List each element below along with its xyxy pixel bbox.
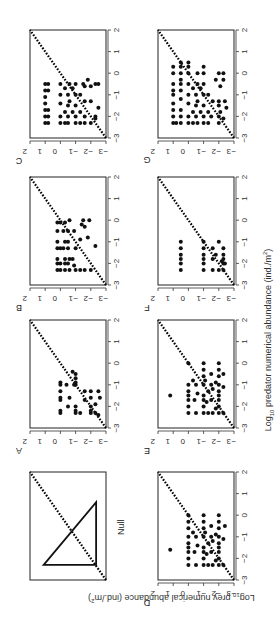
data-point bbox=[202, 65, 206, 69]
data-point bbox=[221, 257, 225, 261]
y-tick-label: 1 bbox=[38, 147, 52, 156]
y-tick-label: 1 bbox=[38, 437, 52, 446]
data-point bbox=[217, 550, 221, 554]
data-point bbox=[194, 104, 198, 108]
data-point bbox=[46, 89, 50, 93]
data-point bbox=[83, 389, 87, 393]
data-point bbox=[206, 93, 210, 97]
data-point bbox=[217, 526, 221, 530]
data-point bbox=[211, 257, 215, 261]
null-label: Null bbox=[116, 519, 126, 535]
data-point bbox=[83, 398, 87, 402]
data-point bbox=[74, 409, 78, 413]
data-point bbox=[218, 84, 222, 88]
y-tick-label: 1 bbox=[166, 589, 180, 598]
data-point bbox=[68, 396, 72, 400]
x-tick-label: −1 bbox=[112, 378, 121, 392]
data-point bbox=[217, 541, 221, 545]
x-tick-label: −2 bbox=[112, 256, 121, 270]
data-point bbox=[186, 93, 190, 97]
data-point bbox=[71, 86, 75, 90]
data-point bbox=[217, 411, 221, 415]
x-tick-label: 0 bbox=[112, 66, 121, 80]
plot-area bbox=[30, 177, 106, 285]
data-point bbox=[96, 389, 100, 393]
data-point bbox=[217, 398, 221, 402]
data-point bbox=[209, 372, 213, 376]
data-point bbox=[202, 114, 206, 118]
data-point bbox=[81, 82, 85, 86]
data-point bbox=[74, 121, 78, 125]
data-point bbox=[217, 513, 221, 517]
data-point bbox=[46, 108, 50, 112]
x-tick-label: −1 bbox=[240, 88, 249, 102]
data-point bbox=[83, 121, 87, 125]
data-point bbox=[74, 246, 78, 250]
data-point bbox=[58, 93, 62, 97]
y-tick-label: 0 bbox=[181, 589, 195, 598]
data-point bbox=[196, 391, 200, 395]
x-tick-label: 0 bbox=[112, 356, 121, 370]
y-tick-label: −1 bbox=[68, 437, 82, 446]
data-point bbox=[89, 389, 93, 393]
data-point bbox=[214, 78, 218, 82]
y-tick-label: 2 bbox=[23, 147, 37, 156]
data-point bbox=[209, 398, 213, 402]
panel-label: F bbox=[144, 303, 150, 313]
panel-label: A bbox=[16, 446, 22, 456]
data-point bbox=[202, 261, 206, 265]
data-point bbox=[68, 268, 72, 272]
data-point bbox=[221, 71, 225, 75]
one-to-one-line bbox=[30, 472, 106, 580]
data-point bbox=[96, 82, 100, 86]
data-point bbox=[89, 121, 93, 125]
data-point bbox=[55, 257, 59, 261]
data-point bbox=[221, 117, 225, 121]
data-point bbox=[96, 413, 100, 417]
data-point bbox=[211, 268, 215, 272]
panel-label: D bbox=[144, 598, 151, 608]
data-point bbox=[202, 374, 206, 378]
data-point bbox=[186, 563, 190, 567]
data-point bbox=[78, 93, 82, 97]
data-point bbox=[179, 253, 183, 257]
y-tick-label: −2 bbox=[83, 437, 97, 446]
x-tick-label: −3 bbox=[240, 131, 249, 145]
data-point bbox=[206, 411, 210, 415]
data-point bbox=[186, 114, 190, 118]
data-point bbox=[209, 550, 213, 554]
data-point bbox=[74, 381, 78, 385]
data-point bbox=[171, 93, 175, 97]
data-point bbox=[179, 97, 183, 101]
y-tick-label: −1 bbox=[196, 437, 210, 446]
x-tick-label: 1 bbox=[240, 487, 249, 501]
data-point bbox=[186, 520, 190, 524]
data-point bbox=[218, 110, 222, 114]
data-point bbox=[168, 394, 172, 398]
data-point bbox=[72, 264, 76, 268]
x-tick-label: 2 bbox=[240, 313, 249, 327]
data-point bbox=[55, 240, 59, 244]
data-point bbox=[209, 535, 213, 539]
data-point bbox=[186, 398, 190, 402]
data-point bbox=[186, 361, 190, 365]
data-point bbox=[202, 268, 206, 272]
data-point bbox=[194, 114, 198, 118]
y-tick-label: 0 bbox=[181, 147, 195, 156]
data-point bbox=[58, 389, 62, 393]
y-tick-label: 0 bbox=[181, 294, 195, 303]
data-point bbox=[66, 114, 70, 118]
data-point bbox=[202, 520, 206, 524]
panel-g: −3−2−1012−3−2−1012G bbox=[158, 30, 234, 138]
data-point bbox=[58, 121, 62, 125]
data-point bbox=[174, 121, 178, 125]
data-point bbox=[74, 404, 78, 408]
data-point bbox=[68, 218, 72, 222]
data-point bbox=[221, 372, 225, 376]
data-point bbox=[89, 409, 93, 413]
data-point bbox=[202, 404, 206, 408]
data-point bbox=[66, 246, 70, 250]
x-tick-label: 1 bbox=[240, 335, 249, 349]
panel-label: B bbox=[16, 303, 22, 313]
data-point bbox=[74, 268, 78, 272]
